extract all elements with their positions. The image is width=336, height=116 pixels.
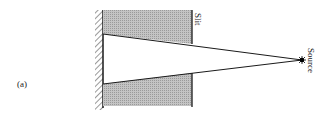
upper-block [103, 10, 192, 44]
panel-label: (a) [17, 79, 27, 89]
lower-ray [103, 60, 302, 84]
source-icon [298, 56, 306, 64]
source-label: Source [306, 48, 316, 73]
slit-label: Slit [193, 13, 203, 26]
wall [95, 10, 103, 110]
upper-ray [103, 34, 302, 60]
lower-block [103, 73, 192, 106]
slit-diagram: Slit Source (a) [0, 0, 336, 116]
